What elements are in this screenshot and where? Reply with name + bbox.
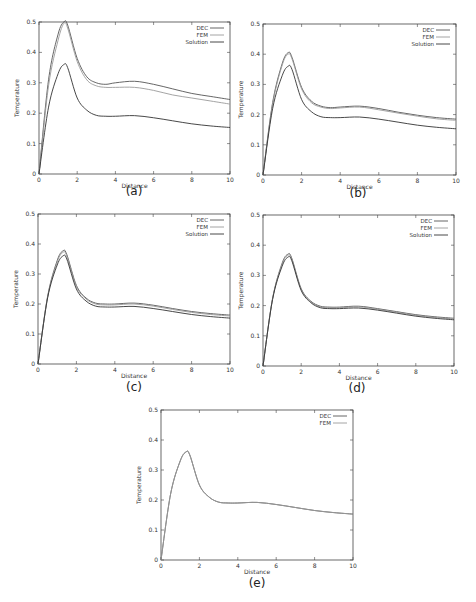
x-tick-label: 10 xyxy=(349,562,357,569)
y-tick-label: 0.2 xyxy=(148,496,158,503)
legend: DECFEM xyxy=(319,413,347,426)
x-tick-label: 8 xyxy=(313,562,317,569)
series-line-dec xyxy=(161,451,353,560)
x-tick-label: 6 xyxy=(274,562,278,569)
chart-panel-e: 024681000.10.20.30.40.5DistanceTemperatu… xyxy=(0,0,476,602)
legend-label: FEM xyxy=(320,420,332,426)
y-tick-label: 0 xyxy=(154,556,158,563)
series-line-fem xyxy=(161,451,353,560)
y-tick-label: 0.3 xyxy=(148,466,158,473)
plot-frame xyxy=(161,410,353,560)
y-tick-label: 0.4 xyxy=(148,436,158,443)
chart-svg: 024681000.10.20.30.40.5DistanceTemperatu… xyxy=(0,0,476,602)
x-tick-label: 2 xyxy=(197,562,201,569)
x-axis-label: Distance xyxy=(244,568,271,575)
y-tick-label: 0.1 xyxy=(148,526,158,533)
y-tick-label: 0.5 xyxy=(148,406,158,413)
legend-label: DEC xyxy=(319,413,331,419)
x-tick-label: 4 xyxy=(236,562,240,569)
panel-caption-e: (e) xyxy=(237,576,277,590)
x-tick-label: 0 xyxy=(159,562,163,569)
y-axis-label: Temperature xyxy=(135,466,143,505)
